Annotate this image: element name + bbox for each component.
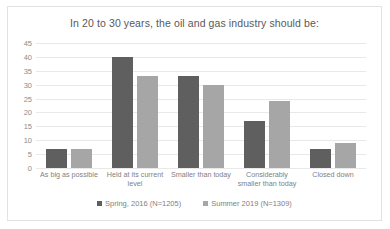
bar[interactable] (335, 143, 356, 168)
y-axis-tick-label: 15 (24, 122, 32, 131)
legend-item[interactable]: Spring, 2016 (N=1205) (97, 199, 181, 208)
bar-group (36, 43, 102, 168)
bar[interactable] (310, 149, 331, 168)
legend-label: Summer 2019 (N=1309) (211, 199, 292, 208)
legend-swatch-icon (97, 201, 102, 206)
y-axis-tick-label: 25 (24, 94, 32, 103)
legend-item[interactable]: Summer 2019 (N=1309) (203, 199, 292, 208)
y-axis-tick-label: 10 (24, 136, 32, 145)
bar[interactable] (71, 149, 92, 168)
bar-groups (36, 43, 366, 168)
y-axis-tick-label: 30 (24, 80, 32, 89)
x-axis-category-label: Smaller than today (168, 170, 234, 188)
bar[interactable] (203, 85, 224, 168)
bar[interactable] (244, 121, 265, 168)
bar[interactable] (269, 101, 290, 168)
y-axis-tick-label: 40 (24, 52, 32, 61)
x-axis-category-label: Held at its current level (102, 170, 168, 188)
bar-group (234, 43, 300, 168)
legend-swatch-icon (203, 201, 208, 206)
x-axis-category-label: Closed down (300, 170, 366, 188)
chart-title: In 20 to 30 years, the oil and gas indus… (8, 17, 381, 29)
y-axis-tick-label: 0 (28, 164, 32, 173)
y-axis-tick-label: 20 (24, 108, 32, 117)
bar-group (102, 43, 168, 168)
x-axis-labels: As big as possibleHeld at its current le… (36, 170, 366, 188)
axis-baseline: 0 (36, 168, 366, 169)
y-axis-tick-label: 45 (24, 39, 32, 48)
chart-container: In 20 to 30 years, the oil and gas indus… (7, 6, 382, 221)
bar[interactable] (112, 57, 133, 168)
legend-label: Spring, 2016 (N=1205) (105, 199, 181, 208)
bar[interactable] (46, 149, 67, 168)
bar[interactable] (137, 76, 158, 168)
y-axis-tick-label: 5 (28, 150, 32, 159)
plot-area: 45 40 35 30 25 20 15 10 5 0 (36, 43, 366, 168)
x-axis-category-label: As big as possible (36, 170, 102, 188)
y-axis-tick-label: 35 (24, 66, 32, 75)
x-axis-category-label: Considerably smaller than today (234, 170, 300, 188)
bar[interactable] (178, 76, 199, 168)
bar-group (300, 43, 366, 168)
bar-group (168, 43, 234, 168)
chart-legend: Spring, 2016 (N=1205)Summer 2019 (N=1309… (8, 199, 381, 208)
